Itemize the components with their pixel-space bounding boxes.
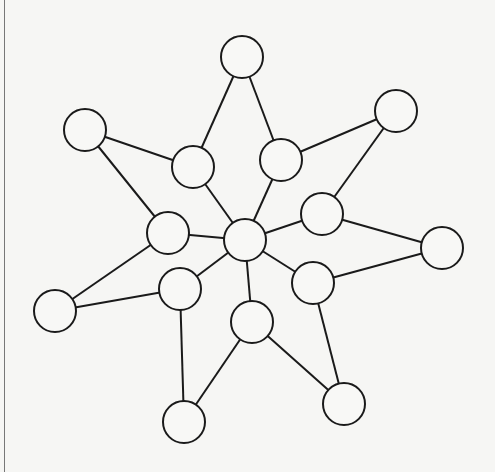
node-right-lower-inner (292, 262, 334, 304)
node-upper-left-outer (64, 109, 106, 151)
node-upper-right-outer (375, 90, 417, 132)
node-far-right (421, 227, 463, 269)
node-right-inner-upper (260, 139, 302, 181)
diagram-canvas (0, 0, 495, 472)
graph-nodes (34, 36, 463, 443)
node-right-mid (301, 193, 343, 235)
node-bottom-right (323, 383, 365, 425)
node-left-lower-inner (159, 268, 201, 310)
node-left-mid (147, 212, 189, 254)
node-left-inner-upper (172, 146, 214, 188)
node-lower-left-outer (34, 290, 76, 332)
node-top (221, 36, 263, 78)
node-bottom-left (163, 401, 205, 443)
graph-diagram (0, 0, 495, 472)
node-bottom-center (231, 301, 273, 343)
node-center (224, 219, 266, 261)
